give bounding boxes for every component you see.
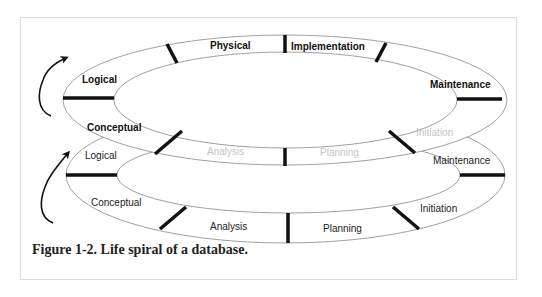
lower-label-planning: Planning	[323, 223, 362, 234]
lower-label-conceptual: Conceptual	[91, 197, 142, 208]
upper-cycle-ring: Logical Physical Implementation Maintena…	[63, 35, 507, 166]
lower-tick-bottom-right	[393, 207, 419, 229]
upper-label-physical: Physical	[210, 40, 251, 51]
lower-label-analysis: Analysis	[210, 221, 247, 232]
lower-label-initiation: Initiation	[420, 203, 457, 214]
lower-label-logical: Logical	[85, 150, 117, 161]
lower-cycle-arrow-icon	[41, 153, 68, 223]
upper-inner-ellipse	[114, 52, 457, 148]
upper-label-logical: Logical	[82, 74, 117, 85]
figure-caption: Figure 1-2. Life spiral of a database.	[32, 242, 248, 258]
lower-label-maintenance: Maintenance	[433, 155, 491, 166]
upper-label-conceptual: Conceptual	[87, 122, 142, 133]
upper-label-maintenance: Maintenance	[430, 79, 491, 90]
upper-cycle-arrow-icon	[39, 58, 66, 116]
upper-label-analysis: Analysis	[207, 146, 244, 157]
upper-label-implementation: Implementation	[291, 41, 365, 52]
upper-label-planning: Planning	[320, 147, 359, 158]
upper-label-initiation: Initiation	[416, 127, 453, 138]
lower-tick-bottom-left	[160, 207, 186, 229]
